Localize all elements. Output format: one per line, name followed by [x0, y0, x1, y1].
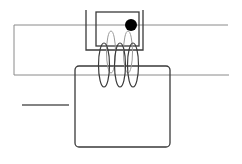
base-box	[75, 66, 170, 147]
diagram-canvas	[0, 0, 242, 164]
ball	[125, 19, 137, 31]
